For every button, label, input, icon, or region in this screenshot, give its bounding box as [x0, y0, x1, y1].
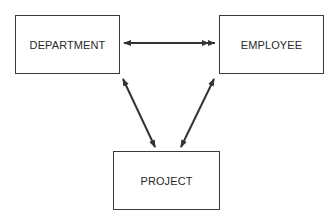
entity-project: PROJECT — [113, 151, 220, 210]
entity-employee: EMPLOYEE — [219, 15, 324, 74]
er-diagram: DEPARTMENT EMPLOYEE PROJECT — [0, 0, 336, 219]
arrow-department-project — [123, 79, 155, 147]
entity-department: DEPARTMENT — [15, 15, 120, 74]
entity-department-label: DEPARTMENT — [30, 39, 106, 51]
entity-project-label: PROJECT — [140, 175, 192, 187]
entity-employee-label: EMPLOYEE — [241, 39, 302, 51]
arrow-employee-project — [181, 79, 214, 147]
